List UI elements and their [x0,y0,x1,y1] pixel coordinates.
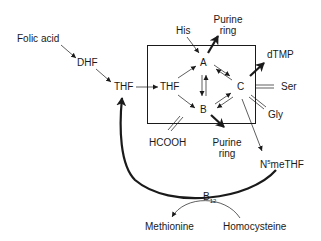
label-thf-outer: THF [114,81,133,92]
label-b12: B12 [203,191,216,207]
reversible-a-c-1 [214,65,230,76]
arrow-dhf-to-thf [96,69,111,82]
reversible-c-gly-1 [249,97,264,109]
purine-top-line1: Purine [210,14,246,25]
bold-arrow-c-to-dtmp [250,63,264,76]
arrow-pool-to-b [178,95,195,108]
label-n5methf: N5meTHF [260,157,304,170]
bold-curved-arrow-n5methf-to-thf [121,98,276,198]
reversible-b-c-2 [217,97,233,108]
arrow-pool-to-a [178,66,196,78]
label-purine-ring-bottom: Purine ring [209,137,245,159]
arrow-folic-to-dhf [61,45,76,58]
purine-bottom-line2: ring [209,148,245,159]
purine-top-line2: ring [210,25,246,36]
label-dtmp: dTMP [267,49,294,60]
node-c: C [237,81,244,92]
node-a: A [200,57,207,68]
label-dhf: DHF [77,57,98,68]
label-gly: Gly [268,109,283,120]
label-purine-ring-top: Purine ring [210,14,246,36]
b12-base: B [203,191,210,202]
node-b: B [200,104,207,115]
reversible-b-c-1 [215,93,231,104]
reversible-c-gly-2 [251,95,266,107]
label-his: His [176,25,190,36]
purine-bottom-line1: Purine [209,137,245,148]
reversible-a-c-2 [216,69,232,80]
label-homocysteine: Homocysteine [223,221,286,232]
label-folic-acid: Folic acid [17,33,59,44]
label-thf-inner: THF [160,81,179,92]
n5methf-suffix: meTHF [271,159,304,170]
bold-arrow-b-to-purine [211,115,224,127]
label-ser: Ser [281,81,297,92]
bold-arrow-a-to-purine [208,36,218,53]
label-methionine: Methionine [145,221,194,232]
label-hcooh: HCOOH [149,137,186,148]
arrow-c-to-n5methf [242,99,262,151]
b12-sub: 12 [210,198,217,204]
